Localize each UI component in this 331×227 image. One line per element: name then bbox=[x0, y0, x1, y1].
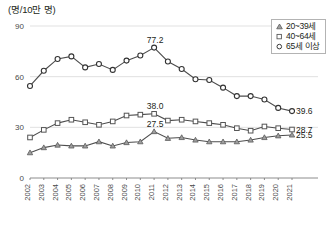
data-point-marker bbox=[179, 67, 184, 72]
x-axis-ticks: 2002200320042005200620072008200920102011… bbox=[23, 178, 294, 201]
x-tick-label: 2013 bbox=[175, 184, 184, 201]
data-point-marker bbox=[96, 62, 101, 67]
x-tick-label: 2011 bbox=[147, 184, 156, 200]
x-tick-label: 2008 bbox=[106, 184, 115, 201]
triangle-marker-icon bbox=[275, 22, 284, 31]
data-value-label: 27.5 bbox=[147, 119, 164, 129]
x-tick-label: 2004 bbox=[51, 184, 60, 201]
chart-container: (명/10만 명) 0306090 2002200320042005200620… bbox=[0, 0, 331, 227]
data-point-marker bbox=[124, 113, 129, 118]
x-tick-label: 2017 bbox=[230, 184, 239, 201]
x-tick-label: 2005 bbox=[64, 184, 73, 201]
x-tick-label: 2009 bbox=[120, 184, 129, 201]
data-point-marker bbox=[96, 139, 101, 144]
data-point-marker bbox=[262, 97, 267, 102]
data-value-label: 77.2 bbox=[147, 35, 164, 45]
x-tick-label: 2020 bbox=[271, 184, 280, 201]
data-point-marker bbox=[69, 54, 74, 59]
data-point-marker bbox=[83, 120, 88, 125]
data-value-label: 38.0 bbox=[147, 101, 164, 111]
data-point-marker bbox=[55, 56, 60, 61]
x-tick-label: 2002 bbox=[23, 184, 32, 201]
x-tick-label: 2014 bbox=[188, 184, 197, 201]
data-point-marker bbox=[179, 117, 184, 122]
data-point-marker bbox=[69, 117, 74, 122]
data-point-marker bbox=[207, 121, 212, 126]
data-point-marker bbox=[83, 65, 88, 70]
data-point-marker bbox=[276, 105, 281, 110]
legend-label-65-plus: 65세 이상 bbox=[286, 42, 320, 52]
y-tick-label: 90 bbox=[15, 22, 24, 31]
legend-item-65-plus[interactable]: 65세 이상 bbox=[275, 42, 320, 52]
data-point-marker bbox=[248, 94, 253, 99]
data-point-marker bbox=[28, 83, 33, 88]
data-point-marker bbox=[138, 53, 143, 58]
x-tick-label: 2010 bbox=[133, 184, 142, 201]
data-point-marker bbox=[110, 119, 115, 124]
y-tick-label: 60 bbox=[15, 73, 24, 82]
data-point-marker bbox=[221, 85, 226, 90]
x-tick-label: 2007 bbox=[92, 184, 101, 201]
data-point-marker bbox=[248, 128, 253, 133]
data-point-marker bbox=[166, 118, 171, 123]
y-tick-label: 0 bbox=[20, 174, 25, 183]
data-point-marker bbox=[151, 129, 156, 134]
data-point-marker bbox=[193, 119, 198, 124]
data-point-marker bbox=[276, 126, 281, 131]
data-point-marker bbox=[97, 123, 102, 128]
data-point-marker bbox=[124, 58, 129, 63]
data-point-marker bbox=[41, 68, 46, 73]
data-point-marker bbox=[110, 67, 115, 72]
data-point-marker bbox=[55, 121, 60, 126]
x-tick-label: 2012 bbox=[161, 184, 170, 201]
data-point-marker bbox=[193, 77, 198, 82]
chart-legend: 20~39세 40~64세 65세 이상 bbox=[271, 19, 326, 54]
square-marker-icon bbox=[275, 32, 284, 41]
data-point-marker bbox=[28, 135, 33, 140]
x-tick-label: 2016 bbox=[216, 184, 225, 201]
data-value-label: 25.5 bbox=[296, 130, 313, 140]
x-tick-label: 2021 bbox=[285, 184, 294, 201]
data-point-marker bbox=[235, 126, 240, 131]
data-point-marker bbox=[221, 123, 226, 128]
y-axis-ticks: 0306090 bbox=[15, 22, 24, 183]
x-tick-label: 2019 bbox=[257, 184, 266, 201]
x-tick-label: 2018 bbox=[244, 184, 253, 201]
circle-marker-icon bbox=[275, 42, 284, 51]
data-point-marker bbox=[41, 128, 46, 133]
x-tick-label: 2015 bbox=[202, 184, 211, 201]
data-point-marker bbox=[290, 127, 295, 132]
data-point-marker bbox=[152, 45, 157, 50]
x-tick-label: 2003 bbox=[37, 184, 46, 201]
x-tick-label: 2006 bbox=[78, 184, 87, 201]
data-point-marker bbox=[138, 112, 143, 117]
data-point-marker bbox=[262, 124, 267, 129]
data-point-marker bbox=[234, 94, 239, 99]
data-point-marker bbox=[165, 59, 170, 64]
y-tick-label: 30 bbox=[15, 123, 24, 132]
data-point-marker bbox=[207, 78, 212, 83]
data-point-marker bbox=[152, 112, 157, 117]
data-point-marker bbox=[290, 109, 295, 114]
data-value-label: 39.6 bbox=[296, 106, 313, 116]
